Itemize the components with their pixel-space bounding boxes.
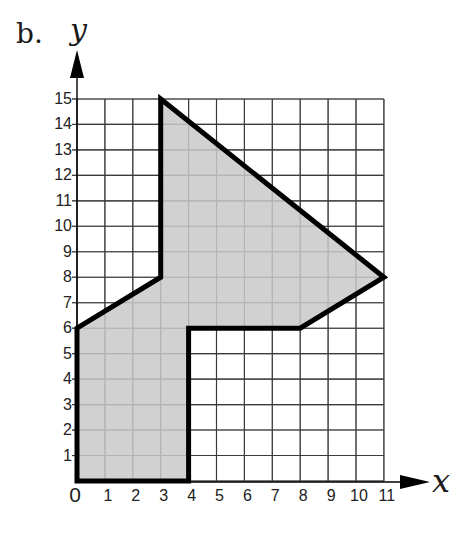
y-tick-label: 10 (54, 218, 72, 234)
y-tick-label: 7 (63, 295, 72, 311)
x-tick-label: 9 (327, 488, 336, 504)
y-tick-label: 13 (54, 142, 72, 158)
y-tick-label: 11 (55, 193, 72, 209)
y-tick-label: 15 (54, 91, 72, 107)
y-tick-label: 1 (63, 448, 72, 464)
y-tick-label: 6 (63, 320, 72, 336)
y-tick-label: 2 (63, 422, 72, 438)
y-tick-label: 3 (63, 397, 72, 413)
x-tick-label: 2 (131, 488, 140, 504)
x-tick-label: 0 (69, 484, 81, 505)
x-tick-label: 6 (243, 488, 252, 504)
shaded-polygon (77, 99, 384, 481)
x-tick-label: 4 (187, 488, 196, 504)
y-tick-label: 5 (63, 346, 72, 362)
y-tick-label: 9 (63, 244, 72, 260)
x-tick-label: 11 (379, 488, 396, 504)
y-axis-arrow-icon (70, 50, 84, 78)
x-tick-label: 10 (350, 488, 368, 504)
y-tick-label: 8 (63, 269, 72, 285)
x-axis-arrow-icon (400, 475, 430, 489)
x-tick-label: 8 (299, 488, 308, 504)
x-tick-label: 7 (271, 488, 280, 504)
y-tick-label: 4 (63, 371, 72, 387)
x-tick-label: 1 (103, 488, 112, 504)
x-tick-label: 3 (159, 488, 168, 504)
coordinate-grid-figure: b. y x 01234567891011 123456789101112131… (0, 0, 471, 548)
y-tick-label: 12 (54, 167, 72, 183)
x-tick-label: 5 (215, 488, 224, 504)
y-tick-label: 14 (54, 116, 72, 132)
